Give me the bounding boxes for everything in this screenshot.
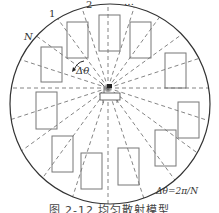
sector-label-n: N	[24, 32, 33, 42]
scatter-ray	[0, 20, 108, 88]
scatterer-rect	[178, 102, 199, 138]
sector-label-ellipsis: …	[124, 0, 134, 7]
sector-label-1: 1	[49, 9, 55, 19]
scatterer-rect	[99, 15, 120, 51]
scatter-ray	[40, 88, 108, 213]
scatter-ray	[108, 0, 219, 88]
figure-caption: 图 2-12 均匀散射模型	[0, 205, 219, 213]
scatterer-rect	[130, 22, 151, 58]
angle-step-label: Δθ	[76, 66, 89, 76]
sector-label-2: 2	[86, 0, 92, 10]
angle-formula-label: Δθ=2π/N	[156, 187, 198, 196]
scatterer-rect	[67, 22, 88, 58]
scatterer-rect	[81, 153, 102, 189]
scatterer-rect	[41, 47, 62, 82]
scatter-ray	[0, 88, 108, 156]
transceiver-icon	[100, 83, 120, 103]
scatterer-rect	[165, 53, 186, 88]
scatter-ray	[108, 0, 176, 88]
scatterer-rect	[118, 148, 139, 185]
boundary-circle	[10, 4, 210, 204]
scatter-ray	[108, 88, 219, 156]
scattering-diagram: 1 2 … N Δθ Δθ=2π/N	[0, 0, 219, 213]
scatter-ray	[108, 20, 219, 88]
scatter-ray	[0, 88, 108, 213]
scatter-ray	[108, 0, 219, 88]
scatterer-rect	[52, 136, 73, 172]
scatter-ray	[0, 88, 108, 213]
scatterer-rectangles	[36, 15, 199, 189]
